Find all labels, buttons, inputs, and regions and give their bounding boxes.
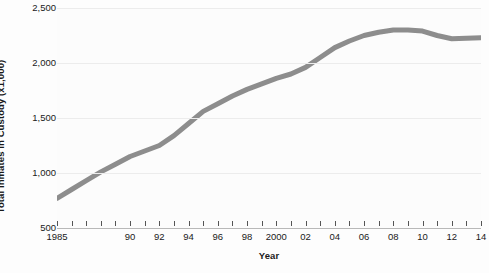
x-axis-tick-mark: [364, 221, 365, 226]
x-axis-tick-mark: [335, 221, 336, 226]
x-axis-tick-labels: 19859092949698200002040608101214: [0, 231, 489, 247]
gridline: [57, 63, 481, 64]
gridline: [57, 173, 481, 174]
x-axis-tick-label: 12: [446, 231, 457, 243]
x-axis-tick-mark: [101, 221, 102, 226]
y-axis-tick-label: 1,000: [18, 168, 56, 178]
x-axis-tick-label: 90: [125, 231, 136, 243]
x-axis-tick-mark: [291, 221, 292, 226]
x-axis-tick-mark: [306, 221, 307, 226]
x-axis-tick-label: 06: [359, 231, 370, 243]
x-axis-tick-mark: [145, 221, 146, 226]
x-axis-tick-mark: [203, 221, 204, 226]
y-axis-tick-label: 2,500: [18, 3, 56, 13]
x-axis-tick-label: 92: [154, 231, 165, 243]
gridline: [57, 8, 481, 9]
plot-area: [57, 8, 481, 228]
line-chart: Total Inmates in Custody (x1,000) 2,5002…: [0, 0, 489, 273]
x-axis-tick-label: 2000: [266, 231, 287, 243]
x-axis-tick-mark: [218, 221, 219, 226]
x-axis-tick-mark: [408, 221, 409, 226]
x-axis-tick-mark: [72, 221, 73, 226]
gridline: [57, 118, 481, 119]
x-axis-tick-mark: [247, 221, 248, 226]
x-axis-tick-mark: [452, 221, 453, 226]
x-axis-title: Year: [57, 250, 481, 261]
x-axis-tick-mark: [466, 221, 467, 226]
x-axis-tick-label: 14: [476, 231, 487, 243]
x-axis-tick-mark: [423, 221, 424, 226]
x-axis-tick-mark: [130, 221, 131, 226]
x-axis-tick-mark: [57, 221, 58, 226]
x-axis-tick-label: 1985: [46, 231, 67, 243]
x-axis-tick-mark: [174, 221, 175, 226]
x-axis-tick-mark: [159, 221, 160, 226]
x-axis-tick-mark: [379, 221, 380, 226]
x-axis-tick-mark: [320, 221, 321, 226]
x-axis-tick-label: 94: [183, 231, 194, 243]
x-axis-tick-mark: [349, 221, 350, 226]
x-axis-tick-marks: [57, 221, 481, 229]
x-axis-tick-label: 96: [213, 231, 224, 243]
x-axis-tick-label: 08: [388, 231, 399, 243]
x-axis-tick-mark: [86, 221, 87, 226]
x-axis-tick-mark: [393, 221, 394, 226]
x-axis-tick-mark: [189, 221, 190, 226]
x-axis-tick-mark: [262, 221, 263, 226]
x-axis-tick-label: 98: [242, 231, 253, 243]
x-axis-tick-mark: [437, 221, 438, 226]
x-axis-tick-mark: [481, 221, 482, 226]
x-axis-tick-mark: [276, 221, 277, 226]
x-axis-tick-mark: [115, 221, 116, 226]
y-axis-tick-labels: 2,5002,0001,5001,000500: [18, 0, 56, 240]
y-axis-tick-label: 2,000: [18, 58, 56, 68]
y-axis-tick-label: 1,500: [18, 113, 56, 123]
x-axis-tick-label: 10: [417, 231, 428, 243]
x-axis-tick-label: 02: [300, 231, 311, 243]
x-axis-tick-label: 04: [329, 231, 340, 243]
x-axis-tick-mark: [232, 221, 233, 226]
